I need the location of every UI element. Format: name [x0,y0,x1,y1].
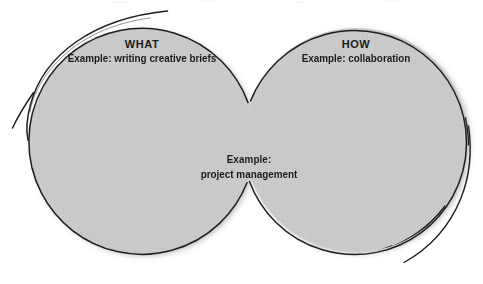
label-set-how-subtitle: Example: collaboration [268,51,445,65]
label-intersection-line2: project management [193,167,306,182]
label-set-how: HOW Example: collaboration [262,38,450,65]
label-set-what: WHAT Example: writing creative briefs [42,38,242,65]
label-set-how-title: HOW [262,38,450,51]
label-set-what-subtitle: Example: writing creative briefs [48,51,236,65]
label-set-what-title: WHAT [42,38,242,51]
venn-diagram: WHAT Example: writing creative briefs HO… [0,0,483,284]
label-intersection: Example: project management [189,152,309,182]
label-intersection-line1: Example: [193,152,306,167]
